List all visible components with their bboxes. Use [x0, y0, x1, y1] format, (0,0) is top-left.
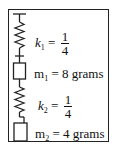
k-subscript: 1 — [41, 43, 45, 52]
m-symbol: m — [35, 126, 45, 141]
denominator: 4 — [61, 44, 70, 58]
fraction: 1 4 — [64, 93, 73, 121]
mass-1-block — [14, 63, 26, 79]
mass-2-label: m2 = 4 grams — [35, 127, 104, 143]
mass-1-label: m1 = 8 grams — [34, 67, 103, 83]
denominator: 4 — [64, 107, 73, 121]
equals-sign: = — [48, 35, 55, 50]
spring-1 — [15, 14, 24, 63]
numerator: 1 — [64, 93, 73, 107]
fraction: 1 4 — [61, 30, 70, 58]
spring-2 — [15, 79, 24, 123]
mass-value: = 4 grams — [49, 126, 104, 141]
spring-2-constant-label: k2 = 1 4 — [38, 93, 72, 121]
spring-1-constant-label: k1 = 1 4 — [35, 30, 69, 58]
equals-sign: = — [51, 98, 58, 113]
mass-value: = 8 grams — [48, 66, 103, 81]
m-symbol: m — [34, 66, 44, 81]
k-subscript: 2 — [44, 106, 48, 115]
numerator: 1 — [61, 30, 70, 44]
mass-2-block — [14, 123, 27, 141]
